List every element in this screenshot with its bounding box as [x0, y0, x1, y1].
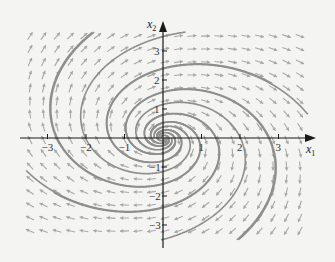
- field-arrow-icon: [69, 97, 73, 106]
- field-arrow-icon: [27, 149, 32, 156]
- field-arrow-icon: [134, 34, 142, 38]
- field-arrow-icon: [174, 60, 183, 64]
- field-arrow-icon: [271, 214, 276, 222]
- field-arrow-icon: [28, 110, 32, 119]
- field-arrow-icon: [40, 163, 46, 169]
- field-arrow-icon: [269, 48, 278, 52]
- field-arrow-icon: [284, 227, 289, 235]
- field-arrow-icon: [271, 201, 275, 209]
- x2-axis-arrow-icon: [159, 21, 167, 32]
- field-arrow-icon: [28, 136, 32, 144]
- field-arrow-icon: [282, 47, 290, 51]
- field-arrow-icon: [69, 84, 73, 92]
- field-arrow-icon: [283, 85, 290, 90]
- field-arrow-icon: [161, 99, 170, 103]
- field-arrow-icon: [95, 136, 99, 144]
- field-arrow-icon: [255, 61, 264, 65]
- field-arrow-icon: [107, 190, 116, 194]
- field-arrow-icon: [28, 45, 32, 53]
- field-arrow-icon: [41, 58, 45, 66]
- field-arrow-icon: [123, 110, 127, 118]
- x2-tick-label: 3: [154, 45, 160, 57]
- field-arrow-icon: [29, 71, 33, 80]
- field-arrow-icon: [216, 124, 222, 131]
- field-arrow-icon: [28, 32, 33, 40]
- field-arrow-icon: [228, 47, 237, 51]
- field-arrow-icon: [42, 84, 46, 93]
- field-arrow-icon: [94, 46, 101, 52]
- field-arrow-icon: [284, 214, 288, 222]
- field-arrow-icon: [242, 60, 251, 64]
- field-arrow-icon: [203, 162, 207, 170]
- field-arrow-icon: [161, 86, 170, 90]
- field-arrow-icon: [258, 136, 262, 144]
- field-arrow-icon: [134, 164, 143, 168]
- field-arrow-icon: [255, 34, 264, 38]
- field-arrow-icon: [134, 190, 143, 194]
- field-arrow-icon: [68, 136, 72, 144]
- trajectory-curve: [50, 32, 201, 187]
- field-arrow-icon: [67, 33, 73, 39]
- field-arrow-icon: [107, 216, 116, 220]
- field-arrow-icon: [26, 203, 34, 208]
- field-arrow-icon: [120, 216, 129, 220]
- field-arrow-icon: [188, 47, 197, 51]
- field-arrow-icon: [80, 216, 89, 220]
- x2-tick-label: −1: [149, 161, 161, 173]
- field-arrow-icon: [39, 203, 47, 207]
- field-arrow-icon: [202, 229, 210, 234]
- field-arrow-icon: [56, 84, 60, 93]
- field-arrow-icon: [244, 175, 248, 184]
- field-arrow-icon: [161, 178, 170, 182]
- field-arrow-icon: [215, 228, 222, 233]
- field-arrow-icon: [161, 165, 170, 169]
- field-arrow-icon: [107, 177, 116, 181]
- field-arrow-icon: [256, 86, 264, 90]
- field-arrow-icon: [201, 112, 209, 116]
- field-arrow-icon: [147, 60, 155, 64]
- field-arrow-icon: [270, 111, 276, 118]
- field-arrow-icon: [81, 71, 86, 78]
- field-arrow-icon: [229, 111, 236, 117]
- field-arrow-icon: [41, 123, 45, 132]
- field-arrow-icon: [298, 123, 303, 131]
- field-arrow-icon: [230, 162, 234, 171]
- field-arrow-icon: [297, 111, 303, 118]
- field-arrow-icon: [122, 98, 128, 105]
- x1-tick-label: −3: [42, 141, 54, 153]
- field-arrow-icon: [40, 176, 47, 182]
- trajectory-curve: [51, 32, 200, 186]
- field-arrow-icon: [215, 99, 223, 103]
- field-arrow-icon: [28, 123, 32, 132]
- field-arrow-icon: [147, 203, 156, 207]
- x1-tick-label: 2: [237, 141, 243, 153]
- field-arrow-icon: [174, 190, 182, 194]
- field-arrow-icon: [55, 58, 60, 66]
- field-arrow-icon: [228, 34, 237, 38]
- field-arrow-icon: [215, 60, 224, 64]
- field-arrow-icon: [134, 60, 142, 64]
- field-arrow-icon: [282, 60, 290, 64]
- field-arrow-icon: [81, 46, 87, 52]
- field-arrow-icon: [243, 123, 248, 130]
- field-arrow-icon: [135, 111, 141, 118]
- field-arrow-icon: [257, 175, 261, 184]
- x2-tick-label: 1: [154, 103, 160, 115]
- field-arrow-icon: [269, 60, 277, 64]
- field-arrow-icon: [107, 34, 115, 39]
- field-arrow-icon: [55, 110, 59, 119]
- field-arrow-icon: [28, 97, 32, 106]
- field-arrow-icon: [55, 97, 59, 106]
- field-arrow-icon: [147, 86, 155, 90]
- x1-tick-label: −1: [119, 141, 131, 153]
- field-arrow-icon: [94, 59, 100, 65]
- field-arrow-icon: [242, 86, 250, 90]
- field-arrow-icon: [93, 229, 102, 233]
- field-arrow-icon: [202, 202, 209, 207]
- field-arrow-icon: [161, 73, 170, 77]
- field-arrow-icon: [296, 34, 304, 38]
- x2-tick-label: −2: [149, 190, 161, 202]
- field-arrow-icon: [269, 34, 278, 38]
- field-arrow-icon: [285, 149, 289, 158]
- field-arrow-icon: [215, 87, 224, 91]
